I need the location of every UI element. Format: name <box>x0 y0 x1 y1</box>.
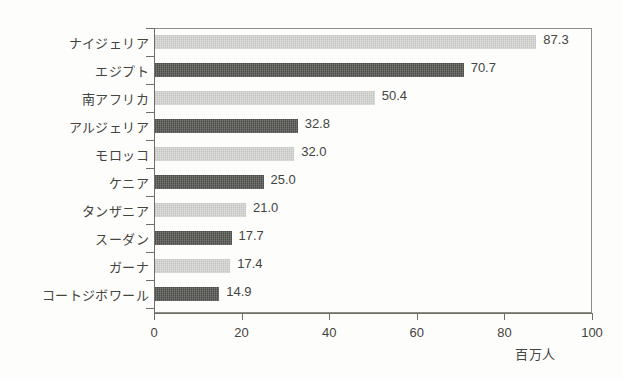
category-label: ケニア <box>4 173 149 192</box>
bar-row: モロッコ32.0 <box>0 140 623 168</box>
bar-wrapper <box>154 119 298 133</box>
bar-wrapper <box>154 147 294 161</box>
category-label: スーダン <box>4 229 149 248</box>
y-axis-tick <box>146 280 154 281</box>
bar-rows: ナイジェリア87.3エジプト70.7南アフリカ50.4アルジェリア32.8モロッ… <box>0 28 623 313</box>
bar-value-label: 70.7 <box>471 60 496 75</box>
x-axis-tick-label: 40 <box>322 325 336 340</box>
bar-row: 南アフリカ50.4 <box>0 84 623 112</box>
x-axis-tick-label: 100 <box>581 325 603 340</box>
x-axis-tick <box>154 313 155 320</box>
bar-wrapper <box>154 35 536 49</box>
bar-chart: ナイジェリア87.3エジプト70.7南アフリカ50.4アルジェリア32.8モロッ… <box>0 0 623 379</box>
y-axis-tick <box>146 196 154 197</box>
bar-row: アルジェリア32.8 <box>0 112 623 140</box>
bar-wrapper <box>154 63 464 77</box>
category-label: エジプト <box>4 61 149 80</box>
bar-value-label: 17.4 <box>237 256 262 271</box>
x-axis-tick <box>242 313 243 320</box>
bar <box>154 259 230 273</box>
y-axis-tick <box>146 308 154 309</box>
bar-value-label: 32.8 <box>305 116 330 131</box>
bar <box>154 231 232 245</box>
bar <box>154 119 298 133</box>
bar-value-label: 21.0 <box>253 200 278 215</box>
bar-value-label: 50.4 <box>382 88 407 103</box>
bar-value-label: 14.9 <box>226 284 251 299</box>
y-axis-tick <box>146 224 154 225</box>
category-label: ガーナ <box>4 257 149 276</box>
bar <box>154 35 536 49</box>
bar-row: スーダン17.7 <box>0 224 623 252</box>
bar <box>154 63 464 77</box>
x-axis-tick <box>329 313 330 320</box>
bar-row: タンザニア21.0 <box>0 196 623 224</box>
bar-wrapper <box>154 231 232 245</box>
category-label: 南アフリカ <box>4 89 149 108</box>
bar-wrapper <box>154 287 219 301</box>
x-axis-tick-label: 0 <box>150 325 157 340</box>
bar-row: ケニア25.0 <box>0 168 623 196</box>
x-axis-tick-label: 60 <box>410 325 424 340</box>
y-axis-tick <box>146 168 154 169</box>
x-axis-tick <box>417 313 418 320</box>
category-label: タンザニア <box>4 201 149 220</box>
bar <box>154 147 294 161</box>
x-axis-tick <box>504 313 505 320</box>
category-label: ナイジェリア <box>4 33 149 52</box>
bar <box>154 287 219 301</box>
bar-value-label: 25.0 <box>271 172 296 187</box>
x-axis-unit-label: 百万人 <box>515 344 556 363</box>
bar-row: ガーナ17.4 <box>0 252 623 280</box>
bar-value-label: 32.0 <box>301 144 326 159</box>
bar <box>154 175 264 189</box>
x-axis-tick-label: 80 <box>497 325 511 340</box>
bar-value-label: 87.3 <box>543 32 568 47</box>
bar-wrapper <box>154 175 264 189</box>
bar-wrapper <box>154 259 230 273</box>
y-axis-tick <box>146 84 154 85</box>
bar-wrapper <box>154 91 375 105</box>
bar-row: ナイジェリア87.3 <box>0 28 623 56</box>
category-label: モロッコ <box>4 145 149 164</box>
bar <box>154 203 246 217</box>
y-axis-line <box>154 28 155 314</box>
bar-row: エジプト70.7 <box>0 56 623 84</box>
y-axis-tick <box>146 252 154 253</box>
category-label: アルジェリア <box>4 117 149 136</box>
bar <box>154 91 375 105</box>
y-axis-tick <box>146 112 154 113</box>
y-axis-tick <box>146 56 154 57</box>
x-axis-tick-label: 20 <box>234 325 248 340</box>
y-axis-tick <box>146 140 154 141</box>
bar-wrapper <box>154 203 246 217</box>
x-axis-line <box>154 313 593 314</box>
y-axis-tick <box>146 28 154 29</box>
bar-value-label: 17.7 <box>239 228 264 243</box>
bar-row: コートジボワール14.9 <box>0 280 623 308</box>
x-axis-tick <box>592 313 593 320</box>
category-label: コートジボワール <box>4 285 149 304</box>
